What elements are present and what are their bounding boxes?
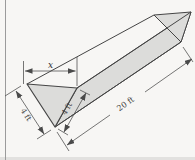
figure-triangular-prism: x 4 ft 4 ft 20 ft (0, 0, 195, 160)
prism-diagram: x 4 ft 4 ft 20 ft (0, 0, 195, 160)
scan-edge-bottom (0, 157, 195, 160)
label-x: x (48, 60, 53, 70)
